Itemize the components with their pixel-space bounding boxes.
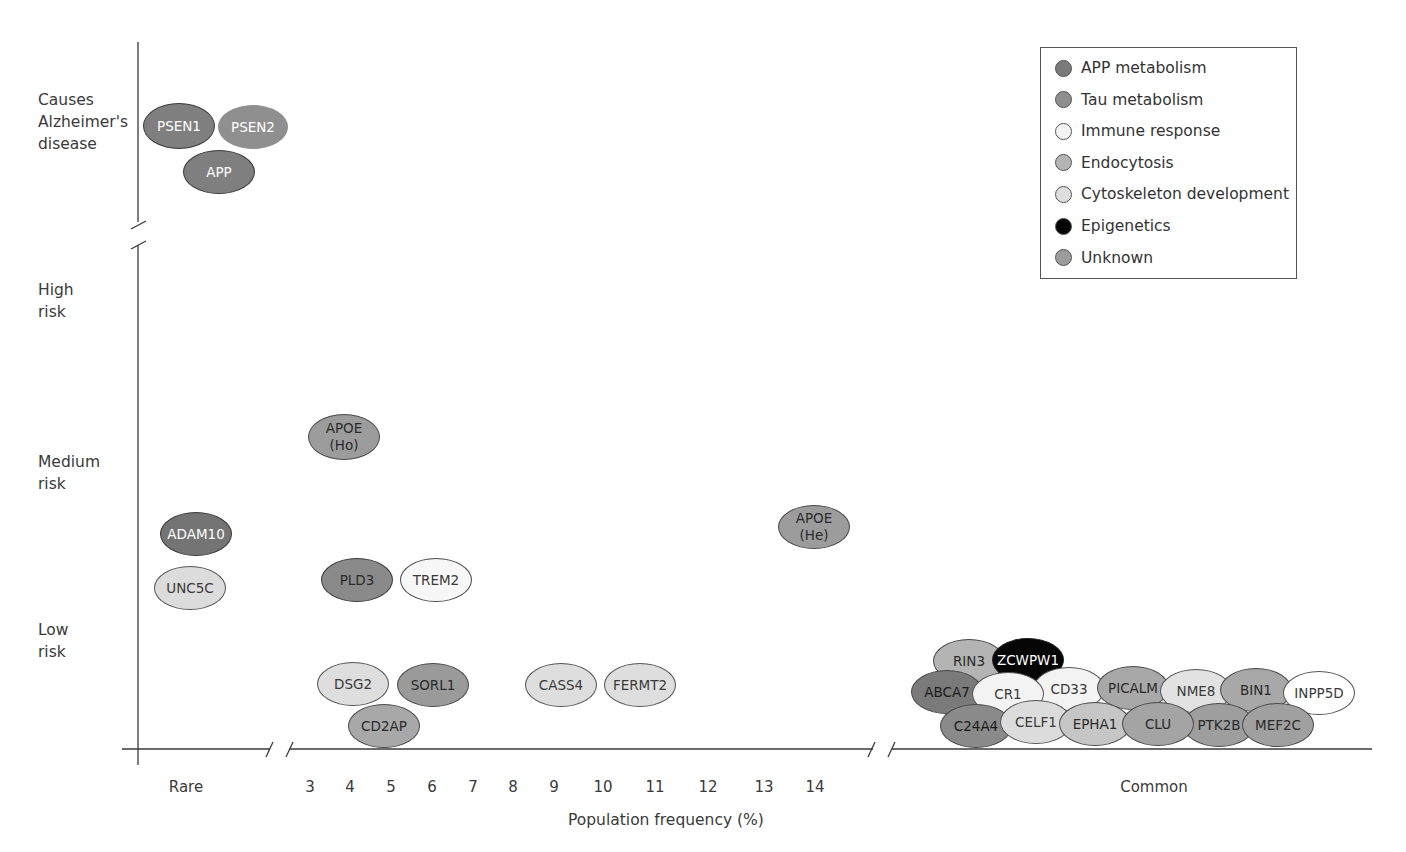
gene-ellipse: PSEN2 [218, 105, 288, 149]
gene-ellipse: APP [183, 150, 255, 194]
y-axis-label: Causes Alzheimer's disease [38, 89, 128, 155]
legend-swatch-circle-icon [1055, 123, 1072, 140]
x-axis-tick-label: 4 [345, 778, 355, 796]
gene-ellipse: CD2AP [348, 704, 420, 748]
gene-ellipse: SORL1 [397, 663, 469, 707]
x-axis-tick-label: 10 [593, 778, 612, 796]
y-axis-label: High risk [38, 279, 74, 323]
legend-item: Epigenetics [1055, 217, 1171, 235]
gene-ellipse: MEF2C [1242, 703, 1314, 747]
x-axis-tick-label: 3 [305, 778, 315, 796]
legend-label: Tau metabolism [1081, 91, 1203, 109]
gene-ellipse: UNC5C [154, 566, 226, 610]
gene-ellipse: FERMT2 [604, 663, 676, 707]
legend-label: Endocytosis [1081, 154, 1174, 172]
gene-ellipse: APOE (He) [778, 505, 850, 549]
y-axis-label: Low risk [38, 619, 69, 663]
legend-swatch-circle-icon [1055, 154, 1072, 171]
legend-swatch-circle-icon [1055, 218, 1072, 235]
legend-swatch-circle-icon [1055, 60, 1072, 77]
legend-item: Cytoskeleton development [1055, 185, 1289, 203]
x-axis-tick-label: 9 [549, 778, 559, 796]
legend-item: APP metabolism [1055, 59, 1207, 77]
x-axis-tick-label: Rare [169, 778, 203, 796]
legend-swatch-circle-icon [1055, 91, 1072, 108]
legend-item: Tau metabolism [1055, 91, 1203, 109]
x-axis-tick-label: 5 [386, 778, 396, 796]
gene-ellipse: CLU [1122, 702, 1194, 746]
legend-item: Immune response [1055, 122, 1220, 140]
legend-label: Epigenetics [1081, 217, 1171, 235]
x-axis-tick-label: 13 [754, 778, 773, 796]
gene-ellipse: PSEN1 [143, 103, 215, 149]
gene-ellipse: EPHA1 [1059, 702, 1131, 746]
legend-swatch-circle-icon [1055, 249, 1072, 266]
legend-label: APP metabolism [1081, 59, 1207, 77]
legend-label: Immune response [1081, 122, 1220, 140]
x-axis-tick-label: 12 [698, 778, 717, 796]
legend: APP metabolismTau metabolismImmune respo… [1040, 47, 1297, 279]
legend-label: Cytoskeleton development [1081, 185, 1289, 203]
x-axis-tick-label: 7 [468, 778, 478, 796]
gene-ellipse: TREM2 [400, 558, 472, 602]
gene-ellipse: PLD3 [321, 558, 393, 602]
x-axis-title: Population frequency (%) [568, 811, 764, 829]
x-axis-tick-label: 11 [645, 778, 664, 796]
gene-ellipse: DSG2 [317, 662, 389, 706]
y-axis-break-mark [131, 221, 146, 229]
legend-item: Endocytosis [1055, 154, 1174, 172]
gene-ellipse: ADAM10 [160, 512, 232, 556]
gene-ellipse: CASS4 [525, 663, 597, 707]
x-axis-tick-label: Common [1120, 778, 1188, 796]
legend-swatch-circle-icon [1055, 186, 1072, 203]
legend-label: Unknown [1081, 249, 1153, 267]
gene-ellipse: APOE (Ho) [308, 414, 380, 460]
legend-item: Unknown [1055, 249, 1153, 267]
x-axis-tick-label: 8 [508, 778, 518, 796]
x-axis-tick-label: 14 [805, 778, 824, 796]
y-axis-label: Medium risk [38, 451, 100, 495]
x-axis-tick-label: 6 [427, 778, 437, 796]
